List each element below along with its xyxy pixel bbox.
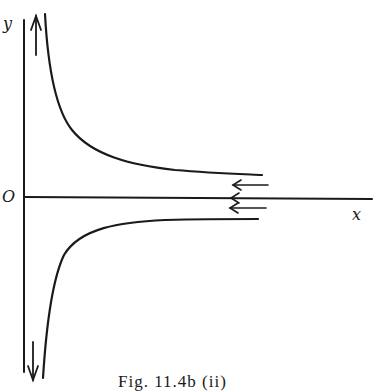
origin-label: O <box>2 187 15 206</box>
left-arrow-icon-lower <box>230 203 266 213</box>
y-axis-label: y <box>3 14 12 33</box>
figure-caption: Fig. 11.4b (ii) <box>118 372 227 392</box>
upper-branch-curve <box>45 14 262 175</box>
lower-branch-curve <box>43 219 258 378</box>
x-axis-label: x <box>352 205 361 224</box>
down-arrow-icon <box>28 342 38 380</box>
left-arrow-icon-upper <box>233 180 268 190</box>
x-axis <box>24 197 372 199</box>
up-arrow-icon <box>31 16 41 55</box>
